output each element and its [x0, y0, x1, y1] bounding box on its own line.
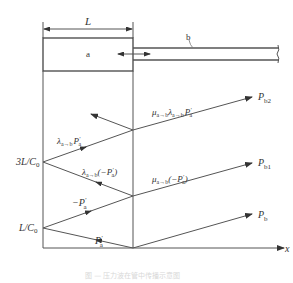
output-label-pb: Pb — [257, 209, 268, 223]
ray-third-reflect — [43, 130, 133, 162]
ray-second-reflect — [43, 162, 133, 196]
pipe-b-label: b — [186, 32, 191, 42]
ray-transmit-pb1 — [133, 163, 252, 196]
ray-transmit-pb — [133, 214, 252, 248]
label-second-reflect: λa→b(−P′a) — [81, 167, 117, 178]
first-reflect-arrowhead — [85, 211, 91, 213]
output-label-pb2: Pb2 — [257, 91, 272, 105]
dimension-label: L — [84, 15, 91, 27]
second-reflect-arrowhead — [96, 182, 100, 184]
region-a-label: a — [86, 49, 90, 59]
figure-caption: 图 — 压力波在管中传播示意图 — [85, 271, 180, 280]
time-label-3L-C0: 3L/C0 — [15, 156, 40, 169]
output-label-pb1: Pb1 — [257, 157, 272, 171]
label-incident-pa: P′a — [94, 234, 104, 249]
ray-fourth-reflect — [91, 114, 133, 130]
x-axis-label: x — [284, 243, 290, 254]
ray-transmit-pb2 — [133, 97, 252, 130]
label-third-reflect: λa→bP′a — [56, 136, 81, 147]
label-transmit-1: μa→b(−P′a) — [151, 174, 188, 185]
wave-propagation-diagram: L a b x 3L/C0 L/C0 P′a −P′a λa→b(−P′a) λ… — [0, 0, 293, 283]
ray-incident — [43, 228, 133, 248]
time-label-L-C0: L/C0 — [18, 222, 38, 235]
label-transmit-2: μa→bλa→bP′a — [151, 107, 193, 118]
label-first-reflect: −P′a — [72, 196, 87, 211]
